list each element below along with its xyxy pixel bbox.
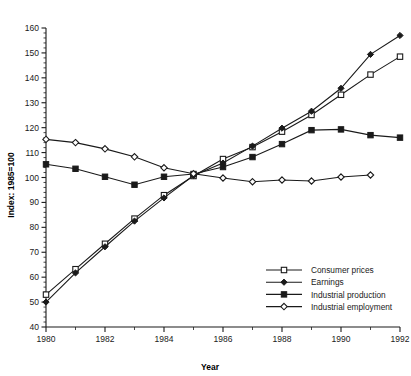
x-tick-label: 1984 xyxy=(155,334,174,344)
data-point xyxy=(397,135,402,140)
x-axis-title: Year xyxy=(201,362,220,372)
y-tick-label: 40 xyxy=(30,322,40,332)
y-tick-label: 120 xyxy=(25,123,39,133)
data-point xyxy=(309,127,314,132)
legend-label: Consumer prices xyxy=(311,265,374,275)
legend-label: Industrial employment xyxy=(311,302,393,312)
y-tick-label: 110 xyxy=(25,148,39,158)
x-tick-label: 1992 xyxy=(391,334,410,344)
y-tick-label: 60 xyxy=(30,272,40,282)
data-point xyxy=(161,174,166,179)
chart-canvas: 405060708090100110120130140150160 198019… xyxy=(0,0,411,376)
x-tick-label: 1988 xyxy=(273,334,292,344)
y-tick-label: 70 xyxy=(30,247,40,257)
legend-label: Earnings xyxy=(311,277,344,287)
data-point xyxy=(338,92,343,97)
y-tick-label: 80 xyxy=(30,222,40,232)
y-tick-label: 160 xyxy=(25,23,39,33)
data-point xyxy=(250,154,255,159)
data-point xyxy=(338,127,343,132)
data-point xyxy=(220,164,225,169)
y-axis-title: Index: 1985=100 xyxy=(6,152,16,218)
legend-label: Industrial production xyxy=(311,290,386,300)
data-point xyxy=(132,182,137,187)
line-chart: 405060708090100110120130140150160 198019… xyxy=(0,0,411,376)
data-point xyxy=(368,132,373,137)
legend-marker xyxy=(281,292,286,297)
x-tick-label: 1990 xyxy=(332,334,351,344)
y-tick-label: 90 xyxy=(30,197,40,207)
x-tick-label: 1980 xyxy=(37,334,56,344)
data-point xyxy=(102,174,107,179)
data-point xyxy=(279,141,284,146)
y-tick-label: 100 xyxy=(25,173,39,183)
data-point xyxy=(73,166,78,171)
y-tick-label: 130 xyxy=(25,98,39,108)
y-tick-label: 50 xyxy=(30,297,40,307)
y-tick-label: 140 xyxy=(25,73,39,83)
legend-marker xyxy=(281,267,286,272)
data-point xyxy=(43,292,48,297)
data-point xyxy=(397,54,402,59)
y-tick-label: 150 xyxy=(25,48,39,58)
x-tick-label: 1986 xyxy=(214,334,233,344)
data-point xyxy=(43,162,48,167)
chart-background xyxy=(0,0,411,376)
x-tick-label: 1982 xyxy=(96,334,115,344)
data-point xyxy=(368,72,373,77)
